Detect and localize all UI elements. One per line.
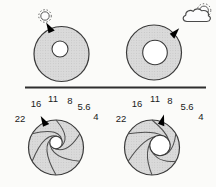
dial-left-fstop-11: 11 bbox=[48, 93, 58, 104]
pupil-large-diagram bbox=[127, 25, 182, 80]
figure-canvas: 22 16 11 8 5.6 4 22 16 11 8 5.6 4 bbox=[0, 0, 216, 187]
dial-right-fstop-11: 11 bbox=[150, 93, 160, 104]
aperture-dial-large-opening bbox=[125, 115, 180, 175]
dial-right-fstop-8: 8 bbox=[167, 95, 172, 106]
dial-right-fstop-5.6: 5.6 bbox=[180, 101, 193, 112]
dial-left-opening bbox=[50, 136, 62, 148]
fstop-scale-right: 22 16 11 8 5.6 4 bbox=[116, 93, 204, 124]
sun-icon bbox=[39, 10, 52, 23]
dial-left-fstop-4: 4 bbox=[93, 111, 98, 122]
pupil-small-diagram bbox=[34, 23, 89, 82]
dial-left-fstop-16: 16 bbox=[31, 98, 42, 109]
dial-right-fstop-16: 16 bbox=[132, 98, 143, 109]
dial-right-opening bbox=[150, 135, 170, 155]
dial-left-fstop-5.6: 5.6 bbox=[77, 101, 90, 112]
dial-right-fstop-4: 4 bbox=[198, 111, 203, 122]
dial-right-fstop-22: 22 bbox=[116, 113, 127, 124]
sun-behind-cloud-icon bbox=[183, 4, 211, 22]
fstop-scale-left: 22 16 11 8 5.6 4 bbox=[15, 93, 99, 124]
aperture-pupil-figure: 22 16 11 8 5.6 4 22 16 11 8 5.6 4 bbox=[0, 0, 216, 187]
cloud-shape bbox=[183, 9, 210, 22]
dial-left-fstop-22: 22 bbox=[15, 113, 26, 124]
pupil-right-opening bbox=[143, 40, 168, 65]
dial-left-fstop-8: 8 bbox=[67, 95, 72, 106]
sun-body bbox=[41, 12, 49, 20]
pupil-left-opening bbox=[52, 41, 68, 57]
aperture-dial-small-opening bbox=[29, 116, 84, 175]
